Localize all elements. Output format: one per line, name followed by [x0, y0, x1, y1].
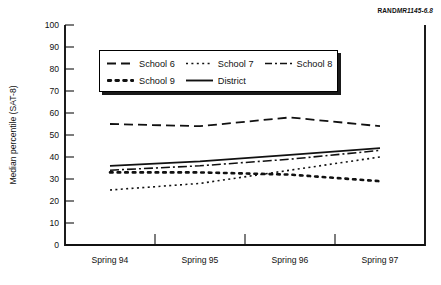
- y-tick-label: 20: [49, 196, 59, 206]
- legend-entry-school-9[interactable]: School 9: [107, 76, 186, 86]
- legend-row: School 9 District: [107, 72, 331, 89]
- x-tick-label: Spring 97: [362, 255, 399, 265]
- chart-legend: School 6 School 7 School 8 Schoo: [99, 50, 338, 92]
- dashed-line-icon: [107, 59, 134, 68]
- plot-area: 100 90 80 70 60 50 40 30 20 10 0 Spring …: [0, 0, 441, 285]
- legend-label-school-7: School 7: [218, 59, 254, 69]
- x-axis-ticks: [155, 234, 335, 245]
- series-line-district: [110, 148, 380, 166]
- y-tick-label: 100: [45, 20, 60, 30]
- dotted-line-icon: [186, 59, 213, 68]
- solid-line-icon: [186, 76, 213, 85]
- y-tick-label: 50: [49, 130, 59, 140]
- series-line-school-8: [110, 150, 380, 170]
- legend-entry-district[interactable]: District: [186, 76, 257, 86]
- y-tick-label: 80: [49, 64, 59, 74]
- y-axis-tick-labels: 100 90 80 70 60 50 40 30 20 10 0: [45, 20, 60, 250]
- x-tick-label: Spring 94: [92, 255, 129, 265]
- y-tick-label: 30: [49, 174, 59, 184]
- y-tick-label: 10: [49, 218, 59, 228]
- legend-row: School 6 School 7 School 8: [107, 55, 331, 72]
- legend-label-school-8: School 8: [297, 59, 333, 69]
- x-tick-label: Spring 96: [272, 255, 309, 265]
- figure-median-percentile-chart: RANDMR1145-6.8 Median percentile (SAT-8)…: [0, 0, 441, 285]
- legend-entry-school-8[interactable]: School 8: [265, 59, 344, 69]
- legend-label-district: District: [218, 76, 246, 86]
- y-tick-label: 70: [49, 86, 59, 96]
- legend-entry-school-7[interactable]: School 7: [186, 59, 265, 69]
- dash-dot-line-icon: [265, 59, 292, 68]
- y-tick-label: 0: [54, 240, 59, 250]
- legend-entry-school-6[interactable]: School 6: [107, 59, 186, 69]
- y-axis-ticks: [65, 25, 74, 223]
- series-line-school-6: [110, 117, 380, 126]
- legend-label-school-6: School 6: [139, 59, 175, 69]
- y-tick-label: 40: [49, 152, 59, 162]
- x-axis-tick-labels: Spring 94 Spring 95 Spring 96 Spring 97: [92, 255, 399, 265]
- legend-label-school-9: School 9: [139, 76, 175, 86]
- y-tick-label: 90: [49, 42, 59, 52]
- thick-dot-line-icon: [107, 76, 134, 85]
- x-tick-label: Spring 95: [182, 255, 219, 265]
- y-tick-label: 60: [49, 108, 59, 118]
